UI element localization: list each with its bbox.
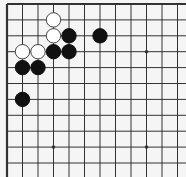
white-stone[interactable] [15,45,29,59]
star-point [145,145,149,149]
go-board[interactable] [0,0,186,177]
star-point [52,145,56,149]
black-stone[interactable] [15,60,29,74]
black-stone[interactable] [31,60,45,74]
board-grid [0,0,186,177]
black-stone[interactable] [62,29,76,43]
black-stone[interactable] [62,45,76,59]
white-stone[interactable] [46,29,60,43]
white-stone[interactable] [31,45,45,59]
black-stone[interactable] [93,29,107,43]
black-stone[interactable] [15,92,29,106]
white-stone[interactable] [46,13,60,27]
black-stone[interactable] [46,45,60,59]
star-point [145,50,149,54]
